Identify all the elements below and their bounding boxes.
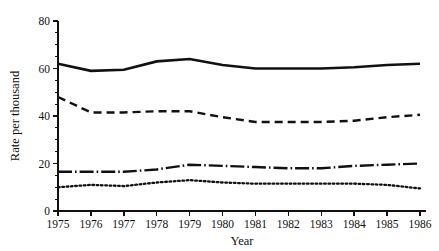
x-tick-label: 1975 [47,218,70,230]
series-dotted [58,180,420,188]
x-axis-title: Year [230,234,254,248]
x-tick-label: 1984 [343,218,366,230]
x-tick-label: 1977 [112,218,135,230]
y-tick-label: 20 [39,158,51,170]
y-tick-label: 0 [44,205,50,217]
x-tick-label: 1978 [145,218,168,230]
series-dash-dot [58,164,420,172]
x-axis-tick-labels: 1975197619771978197919801981198219831984… [47,218,432,230]
x-tick-label: 1980 [211,218,234,230]
x-tick-label: 1985 [376,218,399,230]
x-axis: 1975197619771978197919801981198219831984… [47,211,432,248]
x-tick-label: 1982 [277,218,300,230]
series-dashed [58,97,420,122]
x-tick-label: 1986 [409,218,432,230]
y-tick-label: 40 [39,110,51,122]
y-axis-title: Rate per thousand [8,70,22,161]
chart-canvas: 020406080 Rate per thousand 197519761977… [0,0,439,251]
x-tick-label: 1976 [79,218,102,230]
series-solid [58,59,420,71]
x-tick-label: 1981 [244,218,267,230]
x-tick-label: 1979 [178,218,201,230]
y-tick-label: 60 [39,63,51,75]
y-axis-tick-labels: 020406080 [39,15,51,217]
series-group [58,59,420,188]
x-tick-label: 1983 [310,218,333,230]
y-axis: 020406080 Rate per thousand [8,15,58,217]
y-tick-label: 80 [39,15,51,27]
line-chart: 020406080 Rate per thousand 197519761977… [0,0,439,251]
